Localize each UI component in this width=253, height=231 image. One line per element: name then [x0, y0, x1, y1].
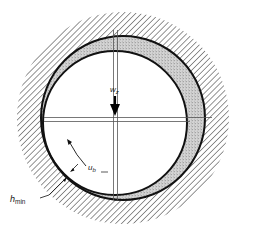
journal-bearing-diagram: wz ub hmin: [0, 0, 253, 231]
min-film-label: hmin: [10, 194, 26, 205]
